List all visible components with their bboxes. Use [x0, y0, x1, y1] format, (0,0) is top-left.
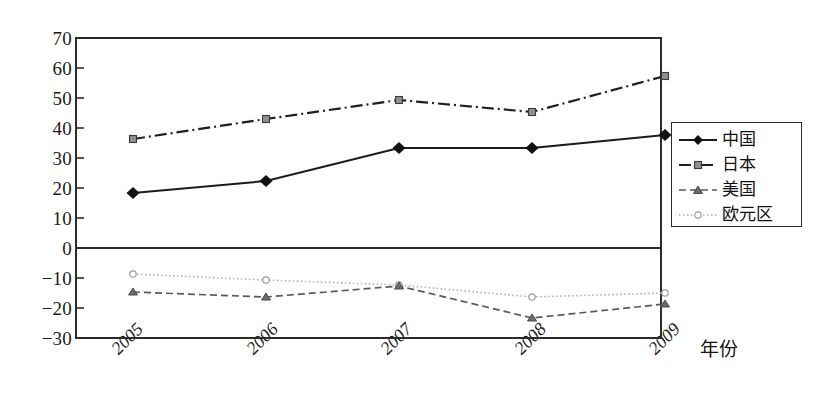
legend-item-japan[interactable]: 日本	[672, 152, 801, 177]
line-square-marker-icon	[677, 155, 719, 175]
chart-container: 70 60 50 40 30 20 10 0 −10 −20 −30 2005 …	[0, 0, 822, 403]
legend-item-usa[interactable]: 美国	[672, 177, 801, 202]
legend-item-china[interactable]: 中国	[672, 127, 801, 152]
series-china	[127, 129, 672, 199]
legend-label-china: 中国	[722, 131, 756, 148]
line-diamond-marker-icon	[677, 130, 719, 150]
china-markers	[127, 129, 672, 199]
legend-item-eurozone[interactable]: 欧元区	[672, 202, 801, 227]
usa-markers	[129, 282, 670, 321]
series-usa	[129, 282, 670, 321]
legend-label-eurozone: 欧元区	[722, 206, 773, 223]
series-japan	[130, 73, 669, 143]
usa-line	[133, 286, 665, 318]
japan-line	[133, 76, 665, 139]
line-circle-marker-icon	[677, 205, 719, 225]
line-triangle-marker-icon	[677, 180, 719, 200]
chart-legend: 中国 日本 美国 欧元区	[671, 122, 802, 227]
y-tick-marks	[76, 68, 84, 308]
legend-label-japan: 日本	[722, 156, 756, 173]
legend-label-usa: 美国	[722, 181, 756, 198]
japan-markers	[130, 73, 669, 143]
plot-frame	[76, 38, 661, 338]
